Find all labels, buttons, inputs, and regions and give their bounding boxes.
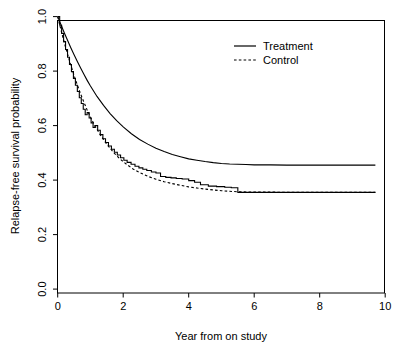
x-tick-label: 2 [120, 300, 126, 312]
legend: Treatment Control [234, 40, 313, 66]
series-control-line [58, 17, 376, 193]
legend-label: Control [263, 54, 298, 66]
y-tick-label: 0.4 [36, 172, 48, 187]
survival-chart-figure: 0.0 0.2 0.4 0.6 0.8 1.0 0 2 4 6 8 10 [0, 0, 403, 351]
legend-item-control[interactable]: Control [234, 54, 298, 66]
series-control-km-step [58, 17, 376, 193]
y-axis-title: Relapse-free survival probability [9, 77, 21, 234]
x-tick-group [58, 293, 386, 298]
y-tick-label: 0.8 [36, 63, 48, 78]
data-series-layer [58, 17, 376, 193]
y-axis: 0.0 0.2 0.4 0.6 0.8 1.0 [36, 9, 58, 297]
x-tick-label: 6 [251, 300, 257, 312]
y-tick-label: 0.6 [36, 118, 48, 133]
y-tick-group [53, 17, 58, 290]
y-tick-label: 0.0 [36, 281, 48, 296]
y-tick-label: 1.0 [36, 9, 48, 24]
x-axis: 0 2 4 6 8 10 [55, 293, 392, 312]
x-axis-title: Year from on study [175, 330, 267, 342]
legend-item-treatment[interactable]: Treatment [234, 40, 313, 52]
plot-canvas: 0.0 0.2 0.4 0.6 0.8 1.0 0 2 4 6 8 10 [0, 0, 403, 351]
x-tick-label: 10 [379, 300, 391, 312]
y-tick-label: 0.2 [36, 227, 48, 242]
legend-label: Treatment [263, 40, 313, 52]
plot-frame [58, 21, 385, 294]
x-tick-label: 0 [55, 300, 61, 312]
x-tick-label: 8 [317, 300, 323, 312]
x-tick-label: 4 [186, 300, 192, 312]
